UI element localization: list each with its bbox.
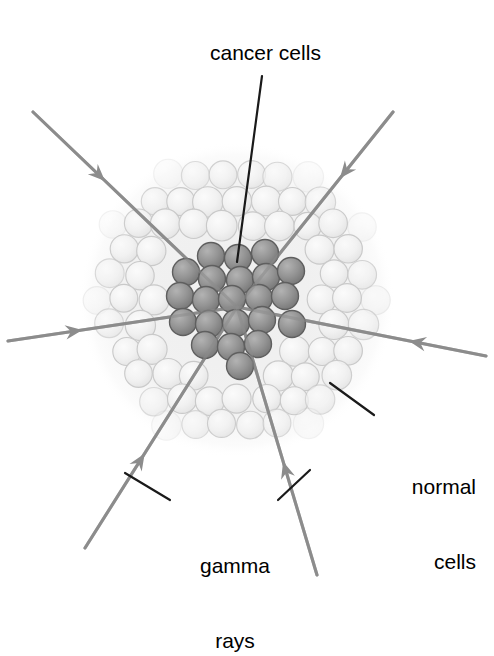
normal-cell xyxy=(333,284,362,313)
label-gamma-rays-line2: rays xyxy=(170,628,300,653)
cancer-cell xyxy=(173,259,200,286)
normal-cell xyxy=(208,409,236,437)
normal-cell xyxy=(125,360,153,388)
normal-cell xyxy=(99,211,126,238)
label-cancer-cells: cancer cells xyxy=(210,40,321,65)
normal-cell xyxy=(238,161,266,189)
normal-cell xyxy=(110,235,138,263)
normal-cell xyxy=(237,411,265,439)
normal-cell xyxy=(209,161,237,189)
normal-cell xyxy=(319,209,348,238)
normal-cell xyxy=(182,411,210,439)
ray-lower-left-arrowhead xyxy=(130,453,145,471)
normal-cell xyxy=(305,235,334,264)
normal-cell xyxy=(320,260,348,288)
normal-cell xyxy=(179,209,208,238)
cancer-cell xyxy=(272,283,299,310)
cancer-cell xyxy=(167,283,194,310)
normal-cell xyxy=(265,211,295,241)
normal-cell xyxy=(95,259,124,288)
leader-gamma-left xyxy=(125,473,170,500)
normal-cell xyxy=(334,235,362,263)
cancer-cell xyxy=(227,353,254,380)
normal-cell xyxy=(150,209,180,239)
normal-cell xyxy=(322,360,352,390)
normal-cell xyxy=(206,210,237,241)
normal-cell xyxy=(293,408,323,438)
label-gamma-rays-line1: gamma xyxy=(170,553,300,578)
label-gamma-rays: gamma rays xyxy=(170,503,300,656)
normal-cell xyxy=(181,162,209,190)
normal-cell xyxy=(222,384,251,413)
label-normal-cells-line2: cells xyxy=(356,549,476,574)
label-normal-cells: normal cells xyxy=(356,424,476,624)
normal-cell xyxy=(110,284,138,312)
cancer-cell xyxy=(278,258,305,285)
label-normal-cells-line1: normal xyxy=(356,474,476,499)
normal-cell xyxy=(154,159,183,188)
